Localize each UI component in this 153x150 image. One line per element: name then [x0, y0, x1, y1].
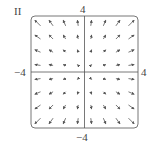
vector-arrow	[77, 79, 78, 80]
vector-arrow	[77, 65, 78, 66]
vector-arrow	[91, 105, 92, 109]
vector-arrow	[35, 20, 41, 26]
vector-arrow	[49, 50, 53, 52]
vector-arrow	[116, 50, 120, 52]
vector-arrow	[103, 20, 105, 26]
vector-arrow	[128, 118, 134, 124]
vector-arrow	[128, 35, 134, 39]
vector-arrow	[103, 35, 105, 39]
vector-arrow	[77, 118, 78, 124]
vector-arrow	[103, 50, 105, 52]
vector-arrow	[63, 35, 65, 39]
vector-arrow	[91, 20, 92, 26]
vector-arrow	[128, 79, 134, 80]
vector-arrow	[49, 118, 53, 124]
vector-arrow	[63, 118, 65, 124]
vector-arrow	[116, 65, 120, 66]
vector-arrow	[91, 35, 92, 39]
vector-arrow	[116, 105, 120, 109]
vector-arrow	[91, 92, 92, 94]
vector-arrow	[63, 50, 65, 52]
vector-arrow	[35, 65, 41, 66]
vector-arrow	[35, 50, 41, 52]
vector-arrow	[63, 20, 65, 26]
vector-arrow	[63, 92, 65, 94]
vector-field-plot	[0, 0, 153, 150]
vector-arrow	[49, 92, 53, 94]
vector-arrow	[103, 118, 105, 124]
vector-arrow	[77, 92, 78, 94]
vector-arrow	[35, 118, 41, 124]
vector-arrow	[63, 65, 65, 66]
vector-arrow	[128, 92, 134, 94]
vector-arrow	[63, 105, 65, 109]
vector-arrow	[128, 20, 134, 26]
vector-arrow	[77, 50, 78, 52]
vector-arrow	[116, 79, 120, 80]
vector-arrow	[91, 118, 92, 124]
vector-arrow	[103, 92, 105, 94]
vector-arrow	[116, 20, 120, 26]
vector-arrow	[63, 79, 65, 80]
vector-arrow	[77, 35, 78, 39]
vector-arrow	[35, 105, 41, 109]
vector-arrow	[103, 65, 105, 66]
vector-arrow	[128, 65, 134, 66]
vector-arrow	[49, 20, 53, 26]
vector-arrow	[35, 79, 41, 80]
vector-arrow	[49, 35, 53, 39]
vector-arrow	[77, 105, 78, 109]
vector-arrow	[91, 65, 92, 66]
vector-arrow	[49, 65, 53, 66]
vector-arrow	[91, 79, 92, 80]
vector-arrow	[116, 118, 120, 124]
vector-arrow	[103, 105, 105, 109]
vector-arrow	[128, 105, 134, 109]
vector-arrow	[103, 79, 105, 80]
vector-arrow	[128, 50, 134, 52]
vector-arrow	[49, 79, 53, 80]
vector-arrow	[91, 50, 92, 52]
vector-arrow	[35, 92, 41, 94]
vector-arrow	[35, 35, 41, 39]
vector-arrow	[116, 92, 120, 94]
vector-arrow	[49, 105, 53, 109]
vector-arrow	[116, 35, 120, 39]
vector-arrow	[77, 20, 78, 26]
